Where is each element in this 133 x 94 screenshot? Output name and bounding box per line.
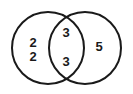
intersection-value-1: 3 (59, 26, 73, 39)
intersection-value-2: 3 (59, 55, 73, 68)
venn-diagram-canvas (0, 0, 133, 94)
left-only-value-1: 2 (26, 36, 40, 49)
venn-diagram-figure: 2 2 3 3 5 (0, 0, 133, 94)
right-only-value-1: 5 (92, 40, 106, 53)
left-only-value-2: 2 (26, 50, 40, 63)
